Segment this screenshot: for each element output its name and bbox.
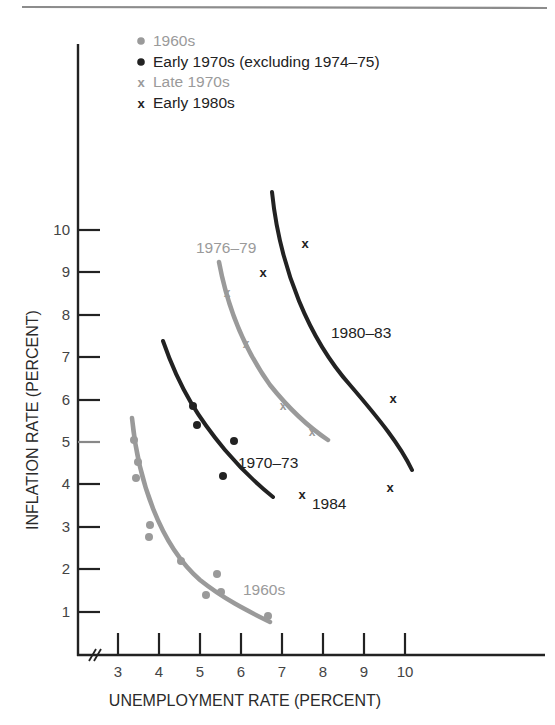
data-point	[177, 557, 185, 565]
y-tick-4: 4	[62, 475, 70, 492]
top-rule	[22, 7, 547, 8]
data-point	[230, 437, 238, 445]
legend-item-early-1970s: Early 1970s (excluding 1974–75)	[137, 53, 379, 70]
svg-text:Early 1980s: Early 1980s	[153, 94, 235, 111]
y-tick-2: 2	[62, 560, 70, 577]
y-tick-7: 7	[62, 348, 70, 365]
x-tick-8: 8	[319, 663, 327, 680]
data-point	[146, 521, 154, 529]
y-tick-labels: 1 2 3 4 5 6 7 8 9 10	[53, 221, 70, 620]
y-ticks	[78, 230, 100, 612]
x-marker-icon: x	[224, 286, 231, 300]
label-1984: 1984	[312, 495, 347, 512]
y-tick-9: 9	[62, 263, 70, 280]
data-point	[130, 436, 138, 444]
gray-x-icon: x	[137, 75, 145, 90]
data-point	[264, 612, 272, 620]
data-point	[217, 588, 225, 596]
x-marker-icon: x	[386, 480, 394, 495]
x-ticks	[118, 633, 405, 655]
x-tick-10: 10	[397, 663, 414, 680]
svg-text:Early 1970s (excluding 1974–75: Early 1970s (excluding 1974–75)	[153, 53, 380, 70]
y-tick-3: 3	[62, 518, 70, 535]
y-axis-title: INFLATION RATE (PERCENT)	[24, 310, 41, 530]
data-point	[219, 472, 227, 480]
data-point	[193, 421, 201, 429]
svg-text:1960s: 1960s	[153, 32, 195, 49]
data-point	[202, 591, 210, 599]
x-marker-icon: x	[259, 265, 267, 280]
x-marker-icon: x	[301, 236, 309, 251]
legend-item-late-1970s: x Late 1970s	[137, 73, 230, 90]
black-x-icon: x	[137, 96, 145, 111]
y-tick-10: 10	[53, 221, 70, 238]
phillips-curve-chart: 1 2 3 4 5 6 7 8 9 10 INFLATION RATE (PER…	[0, 0, 555, 725]
svg-text:Late 1970s: Late 1970s	[153, 73, 230, 90]
data-point	[213, 570, 221, 578]
y-tick-6: 6	[62, 391, 70, 408]
x-marker-icon: x	[298, 487, 306, 502]
data-point	[145, 533, 153, 541]
y-tick-5: 5	[62, 433, 70, 450]
data-point	[189, 402, 197, 410]
x-tick-7: 7	[278, 663, 286, 680]
legend: 1960s Early 1970s (excluding 1974–75) x …	[137, 32, 379, 111]
x-tick-3: 3	[114, 663, 122, 680]
label-1980-83: 1980–83	[331, 324, 391, 341]
x-tick-labels: 3 4 5 6 7 8 9 10	[114, 663, 414, 680]
curve-1976-79	[219, 262, 328, 440]
y-axis: 1 2 3 4 5 6 7 8 9 10 INFLATION RATE (PER…	[24, 44, 100, 656]
y-tick-1: 1	[62, 603, 70, 620]
gray-dot-icon	[137, 37, 145, 45]
label-1960s: 1960s	[243, 581, 285, 598]
x-tick-9: 9	[360, 663, 368, 680]
x-tick-4: 4	[155, 663, 163, 680]
x-axis: 3 4 5 6 7 8 9 10 UNEMPLOYMENT RATE (PERC…	[77, 633, 545, 709]
curves	[132, 192, 412, 622]
black-dot-icon	[137, 58, 145, 66]
legend-item-1960s: 1960s	[137, 32, 195, 49]
x-marker-icon: x	[243, 337, 250, 351]
x-tick-6: 6	[237, 663, 245, 680]
legend-item-early-1980s: x Early 1980s	[137, 94, 235, 111]
x-tick-5: 5	[196, 663, 204, 680]
x-marker-icon: x	[280, 399, 287, 413]
label-1976-79: 1976–79	[196, 239, 256, 256]
y-tick-8: 8	[62, 306, 70, 323]
x-axis-title: UNEMPLOYMENT RATE (PERCENT)	[109, 692, 381, 709]
x-marker-icon: x	[309, 425, 316, 439]
data-point	[134, 458, 142, 466]
x-marker-icon: x	[389, 391, 397, 406]
label-1970-73: 1970–73	[238, 454, 298, 471]
data-point	[132, 474, 140, 482]
